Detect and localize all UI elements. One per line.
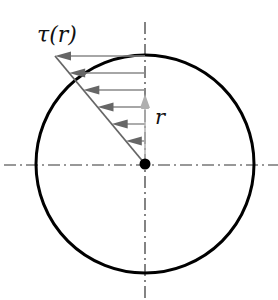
radius-label: r — [155, 105, 167, 129]
tau-label: τ(r) — [37, 22, 77, 47]
stress-envelope-line — [55, 56, 145, 164]
center-point — [140, 159, 151, 170]
shear-stress-diagram: τ(r) r — [0, 0, 278, 300]
radius-arrowhead-icon — [140, 94, 150, 108]
